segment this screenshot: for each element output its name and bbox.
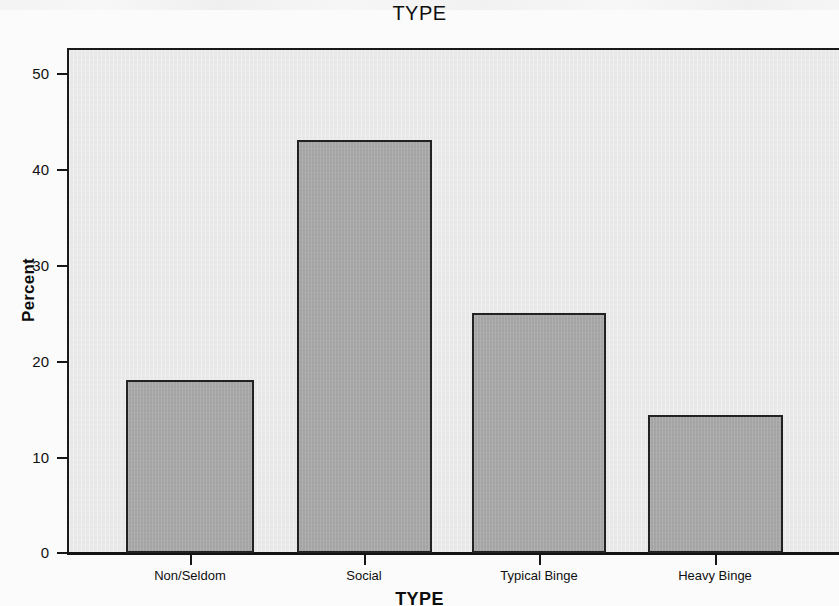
x-tick-non-seldom <box>190 555 192 565</box>
bar-non-seldom[interactable] <box>126 380 254 553</box>
x-tick-typical-binge <box>539 555 541 565</box>
bars-layer <box>0 0 839 606</box>
bar-social[interactable] <box>297 140 432 553</box>
x-axis-title: TYPE <box>0 589 839 606</box>
bar-chart: TYPE Percent 0 10 20 30 40 50 Non/Seldom… <box>0 0 839 606</box>
bar-heavy-binge[interactable] <box>648 415 783 553</box>
bar-typical-binge[interactable] <box>472 313 606 553</box>
x-label-social: Social <box>346 568 381 583</box>
x-tick-heavy-binge <box>715 555 717 565</box>
x-tick-social <box>364 555 366 565</box>
x-label-typical-binge: Typical Binge <box>500 568 577 583</box>
x-label-non-seldom: Non/Seldom <box>154 568 226 583</box>
x-label-heavy-binge: Heavy Binge <box>678 568 752 583</box>
